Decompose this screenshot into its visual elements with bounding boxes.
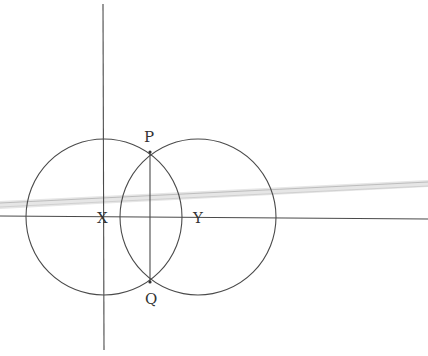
ruler-shadow (0, 180, 428, 209)
point-q (148, 280, 151, 283)
vertical-axis-through-x (103, 4, 104, 350)
point-p (148, 150, 151, 153)
diagram-canvas: P Q X Y (0, 0, 428, 356)
line-xy (0, 216, 428, 219)
label-x: X (97, 211, 108, 226)
label-y: Y (193, 211, 203, 226)
label-p: P (144, 130, 154, 145)
diagram-svg (0, 0, 428, 356)
label-q: Q (145, 292, 157, 307)
